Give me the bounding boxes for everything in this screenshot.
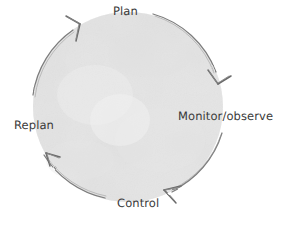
diagram-canvas: Plan Monitor/observe Control Replan — [0, 0, 291, 225]
cycle-label-monitor-observe: Monitor/observe — [178, 110, 273, 123]
cycle-label-plan: Plan — [113, 5, 138, 18]
cycle-label-replan: Replan — [14, 119, 54, 132]
cycle-label-control: Control — [117, 197, 159, 210]
